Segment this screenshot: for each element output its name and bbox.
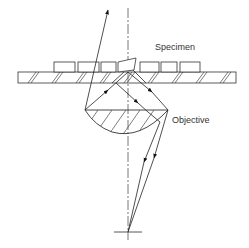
ray-up-left <box>85 90 108 110</box>
specimen-blocks <box>54 58 200 72</box>
objective-lens <box>85 110 168 134</box>
specimen-label: Specimen <box>155 42 195 52</box>
microscope-objective-diagram: Specimen Objective <box>0 0 249 248</box>
substrate-plate <box>18 72 236 83</box>
incident-ray <box>85 10 108 110</box>
ray-inner <box>116 83 138 103</box>
objective-label: Objective <box>172 115 210 125</box>
